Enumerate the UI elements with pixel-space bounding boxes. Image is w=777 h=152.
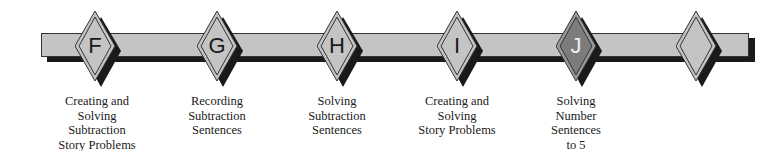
label-line: Subtraction [157,109,277,124]
milestone-label-f: Creating and Solving Subtraction Story P… [37,94,157,151]
milestone-label-g: Recording Subtraction Sentences [157,94,277,138]
timeline-bar [41,33,749,57]
milestone-label-i: Creating and Solving Story Problems [397,94,517,138]
milestone-f: F [75,11,125,87]
milestone-i: I [437,11,487,87]
label-line: Recording [157,94,277,109]
milestone-letter [676,11,716,81]
label-line: Creating and [397,94,517,109]
label-line: Story Problems [37,138,157,152]
milestone-blank [676,11,726,87]
milestone-letter: F [75,11,115,81]
milestone-letter: I [437,11,477,81]
label-line: Sentences [277,123,397,138]
label-line: Creating and [37,94,157,109]
milestone-label-h: Solving Subtraction Sentences [277,94,397,138]
milestone-label-j: Solving Number Sentences to 5 [516,94,636,151]
label-line: Solving [277,94,397,109]
milestone-j-active: J [556,11,606,87]
label-line: Sentences [516,123,636,138]
label-line: Solving [37,109,157,124]
label-line: Sentences [157,123,277,138]
label-line: to 5 [516,138,636,152]
label-line: Number [516,109,636,124]
milestone-letter: H [317,11,357,81]
milestone-letter: J [556,11,596,81]
label-line: Subtraction [37,123,157,138]
label-line: Subtraction [277,109,397,124]
label-line: Story Problems [397,123,517,138]
label-line: Solving [397,109,517,124]
milestone-letter: G [197,11,237,81]
milestone-g: G [197,11,247,87]
label-line: Solving [516,94,636,109]
milestone-h: H [317,11,367,87]
